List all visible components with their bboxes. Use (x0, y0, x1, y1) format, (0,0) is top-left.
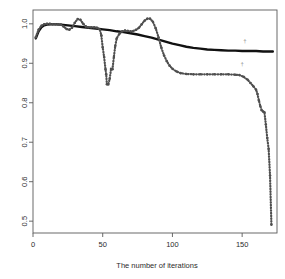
x-tick-label: 0 (31, 240, 35, 249)
chart-canvas: 0501001500.50.60.70.80.91.0 †† The numbe… (0, 0, 285, 279)
data-point (79, 19, 82, 22)
x-tick-label: 100 (166, 240, 179, 249)
chart-background (0, 0, 285, 279)
x-tick-label: 50 (99, 240, 107, 249)
data-point (100, 34, 103, 37)
data-point (40, 25, 43, 28)
data-point (255, 88, 258, 91)
data-point (115, 37, 118, 40)
data-point (238, 74, 241, 77)
data-point (93, 26, 96, 29)
data-point (103, 56, 106, 59)
data-point (62, 25, 65, 28)
data-point (111, 68, 114, 71)
x-axis-title: The number of iterations (116, 261, 198, 270)
data-point (85, 25, 88, 28)
data-point (57, 23, 60, 26)
data-point (146, 17, 149, 20)
data-point (82, 23, 85, 26)
data-point (51, 23, 54, 26)
data-point (114, 45, 117, 48)
data-point (166, 60, 169, 63)
data-point (242, 75, 245, 78)
data-point (160, 46, 163, 49)
upper-tick-mark: † (243, 38, 246, 44)
data-point (76, 18, 79, 21)
data-point (143, 19, 146, 22)
data-point (252, 85, 255, 88)
data-point (71, 27, 74, 30)
data-point (104, 68, 107, 71)
y-tick-label: 0.9 (21, 58, 30, 68)
data-point (141, 23, 144, 26)
y-tick-label: 0.7 (21, 137, 30, 147)
data-point (96, 27, 99, 30)
data-point (105, 73, 108, 76)
data-point (269, 174, 272, 177)
data-point (180, 72, 183, 75)
data-point (263, 111, 266, 114)
data-point (35, 36, 38, 39)
data-point (101, 46, 104, 49)
lower-tick-mark: † (240, 61, 243, 67)
data-point (108, 77, 111, 80)
data-point (127, 30, 130, 32)
data-point (175, 70, 178, 73)
line-chart: 0501001500.50.60.70.80.91.0 †† The numbe… (0, 0, 285, 279)
data-point (48, 23, 51, 26)
y-tick-label: 0.6 (21, 176, 30, 186)
data-point (46, 23, 49, 26)
data-point (267, 148, 270, 151)
data-point (256, 93, 259, 96)
data-point (157, 36, 160, 39)
data-point (132, 30, 135, 32)
data-point (124, 29, 127, 32)
data-point (90, 26, 93, 29)
data-point (185, 73, 188, 76)
data-point (149, 17, 152, 20)
data-point (199, 73, 202, 76)
data-point (65, 28, 68, 31)
y-tick-label: 0.5 (21, 216, 30, 226)
data-point (213, 73, 216, 76)
data-point (129, 30, 132, 32)
data-point (265, 123, 268, 126)
data-point (171, 68, 174, 71)
data-point (270, 223, 273, 226)
data-point (163, 54, 166, 57)
data-point (266, 137, 269, 140)
data-point (154, 27, 157, 30)
data-point (168, 64, 171, 67)
data-point (68, 28, 71, 31)
data-point (227, 73, 230, 76)
x-tick-label: 150 (236, 240, 249, 249)
data-point (220, 73, 223, 76)
data-point (54, 23, 57, 26)
data-point (74, 21, 77, 24)
data-point (192, 73, 195, 76)
data-point (107, 83, 110, 86)
data-point (113, 56, 116, 59)
data-point (43, 23, 46, 26)
data-point (37, 28, 40, 31)
data-point (138, 27, 141, 30)
data-point (246, 79, 249, 82)
y-tick-label: 1.0 (21, 19, 30, 29)
data-point (99, 28, 102, 31)
data-point (249, 82, 252, 85)
data-point (135, 28, 138, 31)
data-point (152, 21, 155, 24)
data-point (258, 99, 261, 102)
data-point (121, 30, 124, 32)
y-tick-label: 0.8 (21, 98, 30, 108)
data-point (60, 23, 63, 26)
data-point (118, 32, 121, 35)
data-point (259, 105, 262, 108)
data-point (88, 26, 91, 29)
data-point (234, 73, 237, 76)
data-point (206, 73, 209, 76)
